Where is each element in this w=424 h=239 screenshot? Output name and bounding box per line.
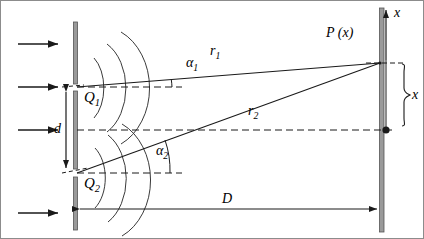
x-offset-brace [402, 64, 410, 126]
ray-r1-label: r1 [210, 44, 220, 61]
figure-border [1, 1, 424, 239]
axis-origin-dot [382, 126, 389, 133]
incoming-wave-arrows [18, 44, 58, 213]
slit-1-label: Q1 [84, 90, 100, 109]
point-p-label: P (x) [326, 26, 353, 40]
wavefront-arc [121, 32, 150, 144]
wavefronts-slit-2 [95, 124, 151, 236]
screen-distance-label: D [222, 192, 232, 206]
slit-barrier [74, 22, 78, 230]
wavefronts-slit-1 [94, 32, 150, 144]
observation-screen [380, 8, 385, 232]
double-slit-diagram: Q1 Q2 α1 α2 r1 r2 P (x) d D x x [0, 0, 424, 239]
point-p-marker [378, 61, 381, 64]
slit-2-label: Q2 [84, 176, 100, 195]
wavefront-arc [107, 44, 126, 132]
barrier-segment-bottom [74, 177, 78, 230]
angle-arc-alpha1 [171, 80, 172, 88]
barrier-segment-middle [74, 91, 78, 169]
slit-separation-label: d [54, 122, 61, 136]
wavefront-arc [94, 58, 104, 118]
ray-r2-label: r2 [248, 104, 258, 121]
barrier-segment-top [74, 22, 78, 84]
angle-alpha1-label: α1 [186, 56, 198, 73]
x-axis-label: x [394, 6, 400, 20]
angle-alpha2-label: α2 [156, 144, 168, 161]
ray-r2 [77, 63, 380, 173]
diagram-canvas [0, 0, 424, 239]
x-offset-label: x [412, 88, 418, 102]
